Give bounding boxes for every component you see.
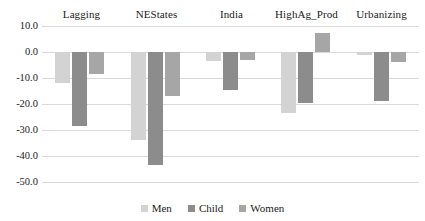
bar-set (268, 26, 343, 182)
bar-women-highag_prod[interactable] (315, 33, 330, 53)
legend-swatch-icon (141, 205, 148, 212)
bar-child-highag_prod[interactable] (298, 52, 313, 103)
bar-women-urbanizing[interactable] (391, 52, 406, 62)
bar-chart: LaggingNEStatesIndiaHighAg_ProdUrbanizin… (0, 0, 425, 221)
legend-item-child[interactable]: Child (188, 201, 223, 215)
bar-women-lagging[interactable] (89, 52, 104, 74)
bar-men-urbanizing[interactable] (357, 52, 372, 55)
legend-label: Child (199, 201, 223, 215)
category-label: HighAg_Prod (269, 4, 344, 24)
plot-wrapper: 10.00.0-10.0-20.0-30.0-40.0-50.0 (0, 26, 425, 182)
y-axis-tick-label: -50.0 (16, 177, 38, 187)
bar-slot (374, 26, 389, 182)
legend-label: Women (250, 201, 284, 215)
bar-slot (281, 26, 296, 182)
bar-group (42, 26, 117, 182)
bar-slot (72, 26, 87, 182)
y-axis-tick-label: -10.0 (16, 73, 38, 83)
bar-set (193, 26, 268, 182)
bar-set (344, 26, 419, 182)
bar-group (117, 26, 192, 182)
bar-slot (131, 26, 146, 182)
bar-slot (206, 26, 221, 182)
bar-slot (391, 26, 406, 182)
legend-item-women[interactable]: Women (239, 201, 284, 215)
bar-men-lagging[interactable] (55, 52, 70, 83)
legend-swatch-icon (188, 205, 195, 212)
bar-group (268, 26, 343, 182)
bar-slot (240, 26, 255, 182)
bar-child-lagging[interactable] (72, 52, 87, 126)
legend-item-men[interactable]: Men (141, 201, 172, 215)
category-label-row: LaggingNEStatesIndiaHighAg_ProdUrbanizin… (44, 4, 419, 24)
category-label: Lagging (44, 4, 119, 24)
bar-slot (55, 26, 70, 182)
bar-group (193, 26, 268, 182)
bar-slot (223, 26, 238, 182)
bar-men-india[interactable] (206, 52, 221, 61)
bar-slot (357, 26, 372, 182)
bar-men-nestates[interactable] (131, 52, 146, 140)
category-label: India (194, 4, 269, 24)
bar-set (117, 26, 192, 182)
y-axis-tick-label: -30.0 (16, 125, 38, 135)
bar-slot (165, 26, 180, 182)
y-axis: 10.00.0-10.0-20.0-30.0-40.0-50.0 (0, 26, 42, 182)
bar-women-india[interactable] (240, 52, 255, 60)
bar-slot (89, 26, 104, 182)
bar-child-urbanizing[interactable] (374, 52, 389, 101)
y-axis-tick-label: 0.0 (25, 47, 38, 57)
bar-child-india[interactable] (223, 52, 238, 90)
y-axis-tick-label: -20.0 (16, 99, 38, 109)
bar-groups (42, 26, 419, 182)
gridline (42, 182, 419, 183)
legend-label: Men (152, 201, 172, 215)
category-label: NEStates (119, 4, 194, 24)
category-label: Urbanizing (344, 4, 419, 24)
y-axis-tick-label: -40.0 (16, 151, 38, 161)
legend: MenChildWomen (0, 201, 425, 215)
bar-slot (298, 26, 313, 182)
legend-swatch-icon (239, 205, 246, 212)
bar-women-nestates[interactable] (165, 52, 180, 96)
bar-men-highag_prod[interactable] (281, 52, 296, 113)
bar-slot (148, 26, 163, 182)
bar-slot (315, 26, 330, 182)
y-axis-tick-label: 10.0 (20, 21, 38, 31)
bar-child-nestates[interactable] (148, 52, 163, 165)
bar-set (42, 26, 117, 182)
bar-group (344, 26, 419, 182)
plot-area (42, 26, 419, 182)
